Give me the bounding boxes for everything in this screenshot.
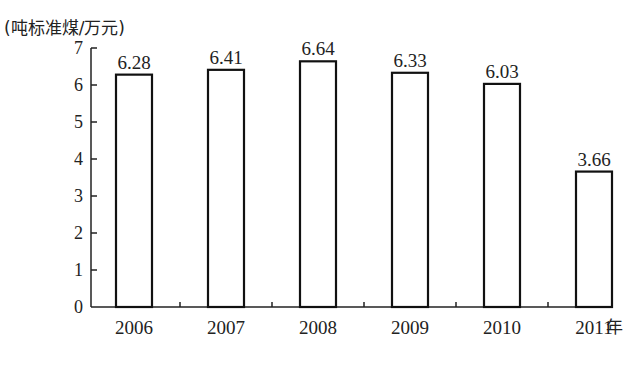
x-tick-label-2011: 2011: [575, 317, 612, 338]
bar-2010: [484, 84, 520, 307]
bar-2007: [208, 70, 244, 307]
y-tick-label: 6: [74, 75, 83, 95]
value-label-2007: 6.41: [209, 47, 242, 68]
y-tick-label: 2: [74, 223, 83, 243]
bar-2006: [116, 75, 152, 307]
bar-2008: [300, 61, 336, 307]
y-tick-label: 3: [74, 186, 83, 206]
value-label-2009: 6.33: [393, 50, 426, 71]
y-tick-label: 7: [74, 38, 83, 58]
bar-2011: [576, 172, 612, 307]
y-tick-label: 0: [74, 297, 83, 317]
value-label-2011: 3.66: [577, 149, 610, 170]
x-tick-label-2007: 2007: [207, 317, 245, 338]
y-tick-label: 5: [74, 112, 83, 132]
value-label-2006: 6.28: [117, 52, 150, 73]
x-tick-label-2008: 2008: [299, 317, 337, 338]
value-label-2010: 6.03: [485, 61, 518, 82]
x-tick-label-2009: 2009: [391, 317, 429, 338]
y-axis-unit-label: (吨标准煤/万元): [4, 18, 125, 38]
value-label-2008: 6.64: [301, 38, 335, 59]
bars: 6.2820066.4120076.6420086.3320096.032010…: [115, 38, 613, 338]
bar-chart: (吨标准煤/万元) 年 01234567 6.2820066.4120076.6…: [0, 0, 639, 366]
y-tick-label: 1: [74, 260, 83, 280]
x-tick-label-2006: 2006: [115, 317, 153, 338]
y-tick-label: 4: [74, 149, 83, 169]
bar-2009: [392, 73, 428, 307]
axes: 01234567: [74, 38, 639, 317]
x-tick-label-2010: 2010: [483, 317, 521, 338]
